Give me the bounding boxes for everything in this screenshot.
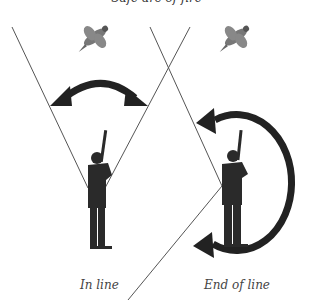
double-arrow-icon	[50, 83, 148, 106]
pheasant-icon	[69, 16, 116, 61]
end-of-line-label: End of line	[204, 278, 270, 292]
arc-lines	[12, 27, 222, 300]
shooter-figure	[222, 130, 248, 247]
end-upper-boundary-line	[150, 27, 222, 186]
pheasant-icon	[210, 16, 257, 61]
inline-right-boundary-line	[105, 27, 190, 188]
diagram-canvas	[0, 0, 313, 300]
shooter-figure	[88, 130, 112, 249]
in-line-label: In line	[80, 278, 119, 292]
left-boundary-line	[12, 27, 88, 188]
